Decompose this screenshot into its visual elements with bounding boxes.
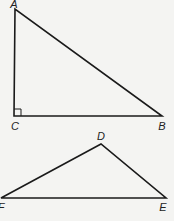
triangle-def xyxy=(1,144,166,198)
vertex-label-b: B xyxy=(158,121,165,132)
vertex-label-a: A xyxy=(10,0,17,10)
geometry-diagram: A C B D F E xyxy=(0,0,174,221)
vertex-label-d: D xyxy=(97,131,105,142)
vertex-label-f: F xyxy=(0,202,4,213)
diagram-svg xyxy=(0,0,174,221)
vertex-label-e: E xyxy=(159,202,166,213)
triangle-abc xyxy=(14,9,162,116)
vertex-label-c: C xyxy=(11,121,19,132)
right-angle-marker xyxy=(14,109,21,116)
